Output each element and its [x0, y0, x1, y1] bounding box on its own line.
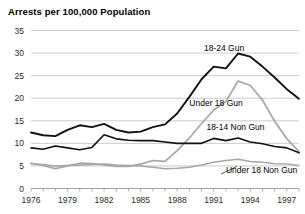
- series-label-3: 18-14 Non Gun: [206, 122, 264, 132]
- x-axis-tick-label: 1991: [197, 195, 231, 205]
- series-line-3: [31, 135, 299, 153]
- series-label-1: 18-24 Gun: [204, 43, 244, 53]
- x-axis-tick-label: 1997: [270, 195, 304, 205]
- series-label-4: Under 18 Non Gun: [226, 165, 297, 175]
- x-axis-tick-label: 1982: [87, 195, 121, 205]
- x-axis-tick-label: 1976: [14, 195, 48, 205]
- y-axis-tick-label: 25: [2, 71, 24, 81]
- y-axis-tick-label: 35: [2, 26, 24, 36]
- y-axis-tick-label: 30: [2, 48, 24, 58]
- x-axis-tick-label: 1979: [51, 195, 85, 205]
- plot-area: 05101520253035 1976197919821985198819911…: [0, 0, 305, 214]
- x-axis-tick-label: 1994: [233, 195, 267, 205]
- x-axis-tick-label: 1985: [124, 195, 158, 205]
- chart-container: Arrests per 100,000 Population 051015202…: [0, 0, 305, 214]
- y-axis-tick-label: 20: [2, 93, 24, 103]
- y-axis-tick-label: 0: [2, 184, 24, 194]
- y-axis-tick-label: 5: [2, 161, 24, 171]
- y-axis-tick-label: 10: [2, 138, 24, 148]
- series-label-2: Under 18 Gun: [189, 98, 242, 108]
- x-axis-tick-label: 1988: [160, 195, 194, 205]
- gridlines-group: [31, 31, 299, 166]
- series-lines-group: [31, 54, 299, 169]
- line-chart-svg: [0, 0, 305, 214]
- y-axis-tick-label: 15: [2, 116, 24, 126]
